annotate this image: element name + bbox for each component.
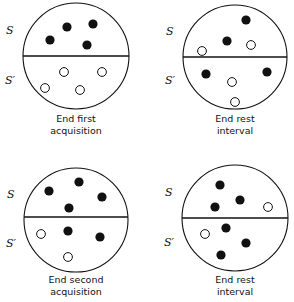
open-dot <box>60 68 69 77</box>
caption-line-2: acquisition <box>50 286 102 297</box>
open-dot <box>76 86 85 95</box>
filled-dot <box>97 192 106 201</box>
filled-dot <box>210 202 219 211</box>
label-s: S <box>7 188 15 201</box>
filled-dot <box>241 15 250 24</box>
open-dot <box>264 203 273 212</box>
filled-dot <box>221 223 230 232</box>
filled-dot <box>216 250 225 259</box>
filled-dot <box>88 19 97 28</box>
open-dot <box>231 98 240 107</box>
label-s: S <box>6 24 14 37</box>
open-dot <box>41 84 50 93</box>
caption-line-1: End rest <box>215 113 255 124</box>
open-dot <box>247 41 256 50</box>
open-dot <box>64 253 73 262</box>
panel-end-rest-interval-1: SS′End restinterval <box>165 5 287 136</box>
caption-line-1: End first <box>56 113 96 124</box>
filled-dot <box>64 203 73 212</box>
caption-line-2: acquisition <box>50 125 102 136</box>
filled-dot <box>44 186 53 195</box>
label-s: S <box>165 186 173 199</box>
panel-end-second-acquisition: SS′End secondacquisition <box>6 168 128 297</box>
filled-dot <box>241 238 250 247</box>
label-s: S <box>166 25 174 38</box>
label-s-prime: S′ <box>164 236 175 249</box>
caption-line-1: End second <box>49 274 104 285</box>
panel-end-first-acquisition: SS′End firstacquisition <box>5 3 129 136</box>
label-s-prime: S′ <box>6 237 17 250</box>
filled-dot <box>63 226 72 235</box>
caption-line-2: interval <box>217 286 253 297</box>
open-dot <box>198 47 207 56</box>
caption-line-1: End rest <box>215 274 255 285</box>
open-dot <box>228 78 237 87</box>
filled-dot <box>215 180 224 189</box>
filled-dot <box>222 36 231 45</box>
filled-dot <box>95 232 104 241</box>
filled-dot <box>45 35 54 44</box>
diagram-canvas: SS′End firstacquisitionSS′End restinterv… <box>0 0 294 302</box>
open-dot <box>98 68 107 77</box>
panel-end-rest-interval-2: SS′End restinterval <box>164 165 288 297</box>
open-dot <box>201 230 210 239</box>
caption-line-2: interval <box>217 125 253 136</box>
filled-dot <box>235 195 244 204</box>
filled-dot <box>201 69 210 78</box>
label-s-prime: S′ <box>165 74 176 87</box>
filled-dot <box>62 22 71 31</box>
filled-dot <box>74 177 83 186</box>
label-s-prime: S′ <box>5 74 16 87</box>
filled-dot <box>262 67 271 76</box>
filled-dot <box>82 40 91 49</box>
open-dot <box>37 230 46 239</box>
